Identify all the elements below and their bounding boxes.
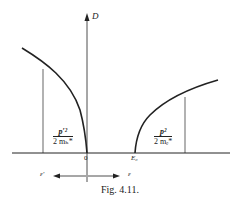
hole-formula-denominator: 2 mₕ* bbox=[53, 137, 73, 146]
right-arrowhead bbox=[113, 174, 120, 179]
density-of-states-diagram bbox=[0, 0, 242, 204]
left-arrow-label: ε′ bbox=[40, 170, 44, 178]
origin-label: 0 bbox=[84, 154, 88, 162]
electron-formula-numerator: p² bbox=[154, 127, 172, 137]
electron-formula-denominator: 2 mₑ* bbox=[154, 137, 172, 146]
figure-caption: Fig. 4.11. bbox=[101, 184, 139, 195]
electron-formula: p² 2 mₑ* bbox=[154, 127, 172, 146]
d-axis-arrowhead bbox=[85, 13, 90, 21]
gap-energy-label: E₀ bbox=[131, 154, 138, 162]
hole-formula: p′² 2 mₕ* bbox=[53, 127, 73, 146]
right-arrow-label: ε bbox=[128, 170, 131, 178]
left-arrowhead bbox=[53, 174, 60, 179]
hole-formula-numerator: p′² bbox=[53, 127, 73, 137]
electron-band-curve bbox=[135, 80, 218, 153]
y-axis-label: D bbox=[92, 11, 99, 21]
